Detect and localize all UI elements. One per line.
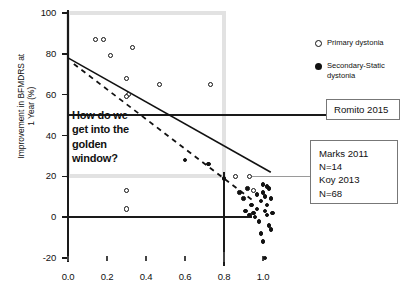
data-point-secondary-26 xyxy=(247,213,252,218)
data-point-secondary-21 xyxy=(269,227,274,232)
data-point-secondary-29 xyxy=(243,209,248,214)
callout-line-3: golden xyxy=(72,137,176,151)
data-point-secondary-10 xyxy=(257,219,262,224)
legend-label-secondary-static-dystonia: Secondary-Static dystonia xyxy=(327,61,401,80)
data-point-secondary-5 xyxy=(245,186,250,191)
legend-item-secondary-static-dystonia: Secondary-Static dystonia xyxy=(315,61,401,80)
data-point-primary-0 xyxy=(93,37,98,42)
data-point-secondary-6 xyxy=(249,203,254,208)
data-point-primary-1 xyxy=(101,37,106,42)
data-point-secondary-4 xyxy=(241,196,246,201)
data-point-secondary-2 xyxy=(222,176,227,181)
callout-line-2: get into the xyxy=(72,122,176,136)
marks-study-label: Marks 2011 xyxy=(319,147,389,160)
callout-line-1: How do we xyxy=(72,108,176,122)
annotation-box-marks-koy: Marks 2011 N=14 Koy 2013 N=68 xyxy=(310,140,398,204)
romito-label: Romito 2015 xyxy=(334,103,388,116)
filled-circle-icon xyxy=(315,63,322,70)
data-point-secondary-20 xyxy=(269,196,274,201)
chart-figure: 100806040200-20 0.00.20.40.60.81.0 Impro… xyxy=(0,0,402,294)
legend-item-primary-dystonia: Primary dystonia xyxy=(315,38,401,47)
romito-leader-line xyxy=(300,114,328,116)
data-point-primary-10 xyxy=(124,206,129,211)
open-circle-icon xyxy=(315,40,322,47)
data-point-secondary-28 xyxy=(265,184,270,189)
golden-window-question-callout: How do we get into the golden window? xyxy=(72,108,176,166)
marks-koy-leader-line xyxy=(252,176,312,178)
data-point-primary-4 xyxy=(124,76,129,81)
data-point-secondary-25 xyxy=(259,231,264,236)
data-point-secondary-3 xyxy=(237,190,242,195)
data-point-secondary-1 xyxy=(206,162,211,167)
marks-n-label: N=14 xyxy=(319,160,389,173)
koy-study-label: Koy 2013 xyxy=(319,173,389,186)
annotation-box-romito: Romito 2015 xyxy=(326,99,400,120)
koy-n-label: N=68 xyxy=(319,187,389,200)
callout-line-4: window? xyxy=(72,151,176,165)
chart-legend: Primary dystonia Secondary-Static dyston… xyxy=(315,38,401,94)
legend-label-primary-dystonia: Primary dystonia xyxy=(327,38,384,47)
data-point-primary-8 xyxy=(208,82,213,87)
